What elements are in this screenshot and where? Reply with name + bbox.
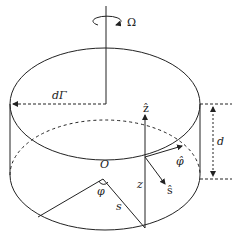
phi-label: φ: [97, 185, 105, 198]
s-label: s: [116, 200, 122, 213]
z-hat-label: ẑ: [143, 102, 149, 115]
origin-label: O: [100, 158, 109, 171]
s-hat-arrow: [145, 157, 165, 184]
d-label: d: [217, 135, 224, 148]
s-hat-label: ŝ: [167, 184, 173, 197]
gamma-label: dΓ: [52, 89, 67, 102]
cylinder-diagram: Ω dΓ O φ s z ẑ φ̂ ŝ d: [0, 0, 232, 242]
omega-label: Ω: [127, 16, 136, 29]
phi-hat-label: φ̂: [176, 155, 184, 168]
reference-radius-line: [38, 179, 103, 217]
rotation-arrow-icon: [93, 16, 121, 25]
z-label: z: [136, 178, 143, 191]
